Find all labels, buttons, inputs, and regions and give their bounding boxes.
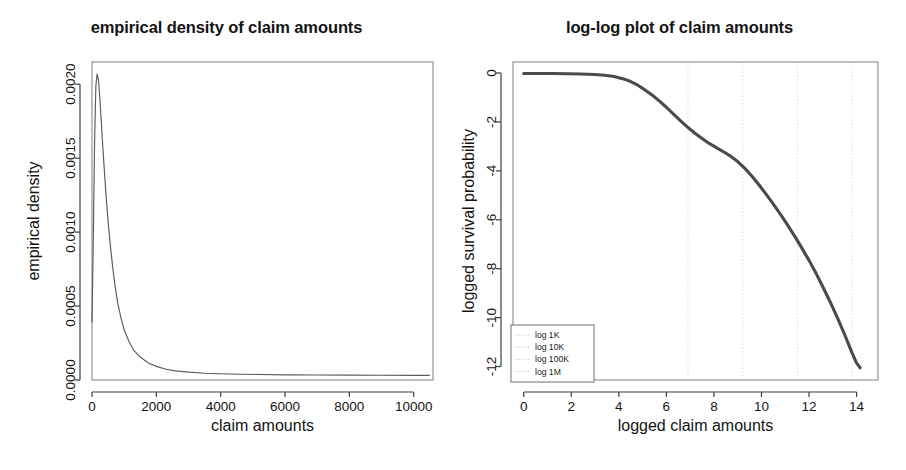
plot-log-log: 024681012140-2-4-6-8-10-12logged claim a… <box>453 0 906 470</box>
legend: log 1Klog 10Klog 100Klog 1M <box>511 325 594 382</box>
y-tick-label-4: -8 <box>484 263 499 275</box>
y-axis-title: logged survival probability <box>460 129 477 313</box>
x-tick-label-6: 12 <box>802 399 817 414</box>
x-tick-label-0: 0 <box>88 399 96 414</box>
x-tick-label-0: 0 <box>520 399 528 414</box>
x-tick-label-3: 6000 <box>270 399 300 414</box>
y-tick-label-0: 0 <box>484 69 499 77</box>
panel-empirical-density: empirical density of claim amounts 02000… <box>0 0 453 470</box>
x-axis-title: claim amounts <box>211 417 314 434</box>
x-axis: 02468101214 <box>520 392 865 414</box>
panel-log-log-plot: log-log plot of claim amounts 0246810121… <box>453 0 906 470</box>
data-series-0 <box>524 74 860 368</box>
x-tick-label-3: 6 <box>663 399 671 414</box>
gridlines-group <box>688 62 852 380</box>
x-tick-label-1: 2000 <box>141 399 171 414</box>
x-tick-label-2: 4 <box>615 399 623 414</box>
y-tick-label-4: 0.0020 <box>63 64 78 105</box>
y-axis: 0.00000.00050.00100.00150.0020 <box>63 64 80 401</box>
y-tick-label-2: -4 <box>484 164 499 176</box>
y-axis-title: empirical density <box>25 161 42 280</box>
plot-frame <box>92 62 433 380</box>
data-series-0 <box>92 74 430 376</box>
figure-container: empirical density of claim amounts 02000… <box>0 0 906 470</box>
legend-label-3: log 1M <box>535 367 561 377</box>
legend-label-0: log 1K <box>535 330 560 340</box>
y-tick-label-1: -2 <box>484 116 499 128</box>
legend-label-1: log 10K <box>535 342 564 352</box>
y-tick-label-6: -12 <box>484 357 499 377</box>
x-tick-label-7: 14 <box>849 399 865 414</box>
y-axis: 0-2-4-6-8-10-12 <box>484 69 501 376</box>
x-tick-label-4: 8 <box>710 399 718 414</box>
x-tick-label-4: 8000 <box>334 399 364 414</box>
x-tick-label-5: 10000 <box>395 399 433 414</box>
y-tick-label-5: -10 <box>484 308 499 328</box>
x-tick-label-2: 4000 <box>206 399 236 414</box>
y-tick-label-1: 0.0005 <box>63 285 78 326</box>
y-tick-label-2: 0.0010 <box>63 211 78 252</box>
x-axis-title: logged claim amounts <box>618 417 774 434</box>
y-tick-label-0: 0.0000 <box>63 359 78 400</box>
x-axis: 0200040006000800010000 <box>88 392 432 414</box>
plot-empirical-density: 02000400060008000100000.00000.00050.0010… <box>0 0 453 470</box>
x-tick-label-5: 10 <box>754 399 769 414</box>
x-tick-label-1: 2 <box>567 399 575 414</box>
y-tick-label-3: -6 <box>484 214 499 226</box>
legend-label-2: log 100K <box>535 354 569 364</box>
y-tick-label-3: 0.0015 <box>63 137 78 178</box>
